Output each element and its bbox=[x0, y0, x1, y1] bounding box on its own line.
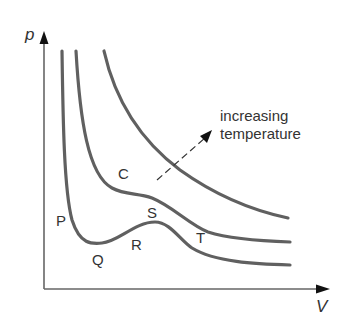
point-label-r: R bbox=[131, 237, 142, 252]
point-label-t: T bbox=[196, 230, 205, 245]
x-axis bbox=[44, 285, 330, 294]
annotation-line-2: temperature bbox=[220, 125, 301, 143]
pv-diagram: p V P Q R S T C increasing temperature bbox=[0, 0, 353, 330]
point-label-c: C bbox=[118, 166, 129, 181]
point-label-s: S bbox=[147, 205, 157, 220]
isotherm-critical bbox=[76, 51, 290, 242]
point-label-p: P bbox=[56, 213, 66, 228]
y-axis bbox=[40, 31, 49, 289]
annotation-line-1: increasing bbox=[220, 107, 301, 125]
point-label-q: Q bbox=[92, 252, 104, 267]
x-axis-label: V bbox=[316, 298, 327, 315]
diagram-canvas bbox=[0, 0, 353, 330]
y-axis-label: p bbox=[25, 26, 34, 43]
isotherm-low bbox=[62, 51, 290, 265]
increasing-temperature-label: increasing temperature bbox=[220, 107, 301, 143]
